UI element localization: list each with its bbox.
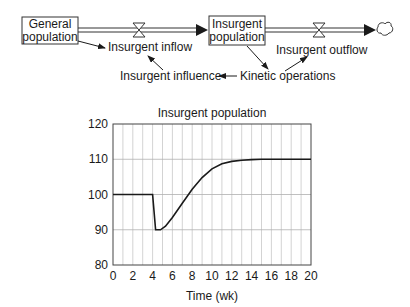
stock-general-population[interactable]: General population (22, 17, 78, 44)
x-tick-label: 16 (265, 269, 279, 283)
x-tick-label: 6 (169, 269, 176, 283)
x-tick-label: 10 (205, 269, 219, 283)
y-tick-label: 110 (89, 152, 108, 166)
x-axis-label: Time (wk) (186, 289, 238, 303)
x-tick-label: 12 (225, 269, 239, 283)
x-tick-label: 8 (189, 269, 196, 283)
y-tick-label: 120 (88, 117, 108, 131)
svg-text:Insurgent: Insurgent (212, 17, 263, 31)
flow-label-insurgent-outflow[interactable]: Insurgent outflow (276, 43, 368, 57)
y-tick-label: 90 (95, 223, 109, 237)
x-tick-label: 18 (285, 269, 299, 283)
flow-label-insurgent-inflow[interactable]: Insurgent inflow (108, 40, 192, 54)
svg-text:population: population (22, 30, 77, 44)
y-tick-label: 100 (88, 188, 108, 202)
stock-flow-diagram-and-chart: General population Insurgent population … (0, 0, 410, 307)
flow-arrowhead-icon (364, 24, 376, 36)
svg-text:population: population (209, 30, 264, 44)
flow-arrowhead-icon (196, 24, 208, 36)
aux-kinetic-operations[interactable]: Kinetic operations (240, 69, 335, 83)
y-tick-label: 80 (95, 258, 109, 272)
chart-title: Insurgent population (158, 106, 267, 120)
svg-text:General: General (29, 17, 72, 31)
aux-insurgent-influence[interactable]: Insurgent influence (120, 69, 222, 83)
stock-insurgent-population[interactable]: Insurgent population (209, 16, 265, 45)
x-tick-label: 20 (304, 269, 318, 283)
x-axis-ticks: 02468101214161820 (110, 269, 318, 283)
cloud-icon (377, 22, 393, 35)
hourglass-valve-icon[interactable] (133, 23, 145, 37)
hourglass-valve-icon[interactable] (313, 23, 325, 37)
x-tick-label: 14 (245, 269, 259, 283)
y-axis-ticks: 8090100110120 (88, 117, 108, 272)
x-tick-label: 0 (110, 269, 117, 283)
x-tick-label: 2 (129, 269, 136, 283)
x-tick-label: 4 (149, 269, 156, 283)
